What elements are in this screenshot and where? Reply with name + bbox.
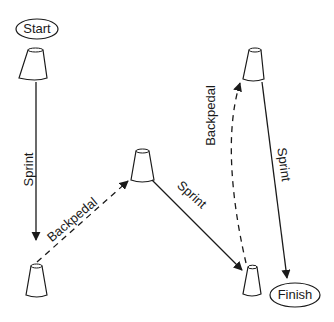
- cone-icon: [131, 149, 154, 182]
- cone-icon: [26, 264, 47, 297]
- cone-icon: [19, 48, 47, 80]
- path-backpedal-1: [37, 181, 128, 262]
- path-label-backpedal-2: Backpedal: [204, 84, 217, 148]
- drill-diagram: Start Finish Sprint Backpedal Sprint Bac…: [0, 0, 334, 322]
- path-label-sprint-1: Sprint: [22, 150, 35, 190]
- cone-icon: [243, 48, 264, 81]
- cone-icon: [243, 265, 261, 296]
- path-backpedal-2: [231, 83, 246, 263]
- finish-label: Finish: [270, 288, 320, 301]
- start-label: Start: [16, 22, 58, 35]
